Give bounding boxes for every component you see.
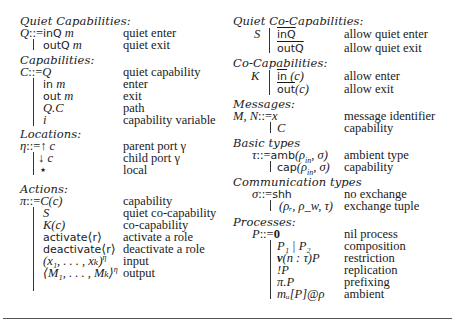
production-q-2: outQ m xyxy=(43,39,82,52)
production-p-1: P::=0 xyxy=(252,228,280,240)
production-pi-3: K(c) xyxy=(43,219,65,231)
alternative-bar xyxy=(33,39,34,50)
term: c xyxy=(47,151,53,165)
production-c-1: C::=Q xyxy=(20,66,51,78)
superscript: η xyxy=(103,253,107,262)
term: Q xyxy=(42,65,51,79)
arg: (c) xyxy=(295,82,309,96)
description: capability xyxy=(344,122,393,134)
description: allow quiet enter xyxy=(344,28,428,40)
alternative-bar xyxy=(33,152,34,175)
alternative-bar xyxy=(270,161,271,172)
alternative-bar xyxy=(33,78,34,126)
term: ⟨M₁, . . . , Mₖ⟩ xyxy=(43,266,114,280)
var: m xyxy=(73,38,82,52)
defines-symbol: ::= xyxy=(29,26,43,40)
production-m-2: C xyxy=(277,122,285,134)
star-icon: ⋆ xyxy=(39,163,47,177)
section-heading-co-capabilities: Co-Capabilities: xyxy=(233,56,327,70)
production-pi-7: ⟨M₁, . . . , Mₖ⟩η xyxy=(43,267,118,279)
alternative-bar xyxy=(270,122,271,133)
figure-bottom-rule xyxy=(3,318,452,319)
production-k-lhs: K xyxy=(251,70,259,82)
defines-symbol: ::= xyxy=(258,187,272,201)
arg: (ρ xyxy=(297,160,307,174)
var: m xyxy=(64,89,73,103)
keyword: in xyxy=(277,70,287,83)
production-tau-2: cap(ρin, σ) xyxy=(277,161,330,174)
defines-symbol: ::= xyxy=(260,227,274,241)
description: capability xyxy=(344,161,393,173)
keyword: outQ xyxy=(277,42,304,55)
arg: (c) xyxy=(290,69,304,83)
keyword: cap xyxy=(277,161,297,174)
superscript: η xyxy=(114,265,118,274)
description: allow enter xyxy=(344,70,400,82)
production-p-6: mᵤ[P]@ρ xyxy=(277,288,325,300)
alternative-bar xyxy=(269,28,270,53)
production-k-2: out(c) xyxy=(277,83,309,96)
description: allow exit xyxy=(344,83,394,95)
keyword: inQ xyxy=(277,28,296,41)
production-pi-1: π::=C(c) xyxy=(20,195,62,207)
description: ambient xyxy=(344,288,384,300)
description: local xyxy=(123,164,147,176)
description: quiet exit xyxy=(123,39,170,51)
production-s-lhs: S xyxy=(254,28,260,40)
production-s-1: inQ xyxy=(277,28,296,41)
production-sigma-2: (ρᵣ, ρ_w, τ) xyxy=(279,200,333,212)
arg-tail: , σ) xyxy=(313,160,330,174)
production-c-5: i xyxy=(43,114,46,126)
production-s-2: outQ xyxy=(277,42,304,55)
defines-symbol: ::= xyxy=(28,65,42,79)
keyword: outQ xyxy=(43,39,70,52)
keyword: out xyxy=(277,83,295,96)
alternative-bar xyxy=(269,70,270,95)
description: exchange tuple xyxy=(344,200,419,212)
defines-symbol: ::= xyxy=(258,109,272,123)
alternative-bar xyxy=(33,207,34,291)
production-c-4: Q.C xyxy=(43,102,64,114)
production-eta-3: ⋆ xyxy=(39,164,47,176)
alternative-bar xyxy=(270,200,271,211)
lhs: M, N xyxy=(233,109,258,123)
lhs: P xyxy=(252,227,260,241)
defines-symbol: ::= xyxy=(256,148,270,162)
defines-symbol: ::= xyxy=(26,194,40,208)
description: output xyxy=(123,267,155,279)
lhs: Q xyxy=(20,26,29,40)
description: allow quiet exit xyxy=(344,42,422,54)
description: capability variable xyxy=(123,114,216,126)
section-heading-quiet-co-capabilities: Quiet Co-Capabilities: xyxy=(233,14,364,28)
production-m-1: M, N::=x xyxy=(233,110,278,122)
alternative-bar xyxy=(270,240,271,299)
